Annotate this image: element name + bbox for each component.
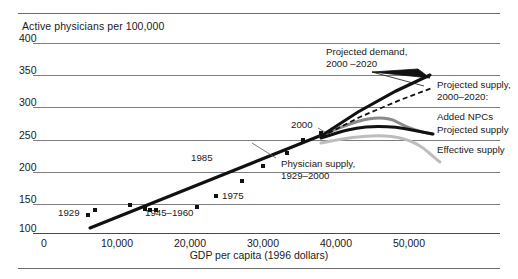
annotation-projected-supply-head-line2: 2000–2020: <box>437 91 488 102</box>
series-physician-supply-trend <box>90 135 322 228</box>
annotation-1929: 1929 <box>58 207 80 218</box>
leader-projected-demand <box>372 69 430 78</box>
series-projected-demand <box>321 75 430 136</box>
gridline-350 <box>33 75 500 76</box>
data-point <box>261 164 265 168</box>
data-point <box>86 213 90 217</box>
annotation-effective-supply: Effective supply <box>437 144 505 155</box>
annotation-1975: 1975 <box>222 190 244 201</box>
series-projected-supply-dashed <box>321 88 432 137</box>
data-point <box>128 203 132 207</box>
top-rule <box>18 13 500 14</box>
data-point <box>214 194 218 198</box>
annotation-1985: 1985 <box>191 152 213 163</box>
x-axis-title: GDP per capita (1996 dollars) <box>0 249 518 261</box>
gridline-150 <box>33 204 500 205</box>
y-tick-150: 150 <box>19 194 47 204</box>
y-tick-250: 250 <box>19 130 47 140</box>
x-tick-40000: 40,000 <box>306 238 366 248</box>
annotation-projected-supply: Projected supply <box>437 124 509 135</box>
annotation-1945-1960: 1945–1960 <box>145 207 194 218</box>
annotation-added-npcs: Added NPCs <box>437 111 493 122</box>
gridline-400 <box>33 43 500 44</box>
y-tick-300: 300 <box>19 97 47 107</box>
gridline-250 <box>33 140 500 141</box>
y-axis-title: Active physicians per 100,000 <box>22 20 164 32</box>
series-projected-supply <box>321 127 433 138</box>
leader-physician-supply <box>252 143 276 158</box>
series-added-npcs <box>321 118 432 136</box>
annotation-physician-supply-line2: 1929–2000 <box>281 170 330 181</box>
x-tick-30000: 30,000 <box>233 238 293 248</box>
chart-figure: Active physicians per 100,000 GDP per ca… <box>0 0 518 279</box>
data-point <box>319 131 323 135</box>
y-tick-200: 200 <box>19 162 47 172</box>
x-tick-10000: 10,000 <box>87 238 147 248</box>
annotation-projected-supply-head-line1: Projected supply, <box>437 79 511 90</box>
y-tick-100: 100 <box>19 223 47 233</box>
x-tick-0: 0 <box>14 238 74 248</box>
annotation-projected-demand-line2: 2000 –2020 <box>326 58 377 69</box>
data-point <box>301 138 305 142</box>
data-point <box>195 205 199 209</box>
data-point <box>285 151 289 155</box>
annotation-projected-demand-line1: Projected demand, <box>326 46 407 57</box>
x-tick-20000: 20,000 <box>160 238 220 248</box>
bottom-rule <box>18 268 500 269</box>
gridline-100-axis <box>33 233 500 234</box>
y-tick-400: 400 <box>19 33 47 43</box>
annotation-2000: 2000 <box>291 119 313 130</box>
y-tick-350: 350 <box>19 65 47 75</box>
gridline-300 <box>33 107 500 108</box>
data-point <box>93 208 97 212</box>
x-tick-50000: 50,000 <box>379 238 439 248</box>
annotation-physician-supply-line1: Physician supply, <box>281 158 355 169</box>
data-point <box>240 179 244 183</box>
gridline-200 <box>33 172 500 173</box>
